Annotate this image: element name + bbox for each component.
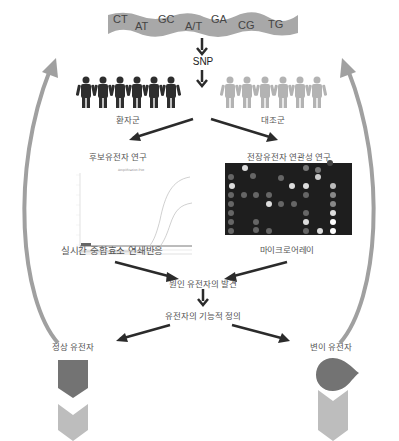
dna-base: CT — [113, 13, 128, 25]
candidate-gene-study-label: 후보유전자 연구 — [89, 150, 146, 162]
functional-definition-label: 유전자의 기능적 정의 — [165, 309, 240, 321]
mutant-gene-icon — [316, 358, 359, 441]
microarray-label: 마이크로어레이 — [260, 243, 315, 255]
gwas-label: 전장유전자 연관성 연구 — [247, 150, 330, 162]
dna-base: A/T — [185, 20, 202, 32]
dna-base: AT — [135, 20, 148, 32]
snp-label: SNP — [193, 56, 214, 67]
causal-gene-discovery-label: 원인 유전자의 발견 — [169, 277, 236, 289]
mutant-gene-label: 변이 유전자 — [310, 340, 352, 352]
svg-text:Amplification Plot: Amplification Plot — [118, 168, 145, 172]
dna-base: TG — [268, 18, 283, 30]
normal-gene-label: 정상 유전자 — [52, 340, 94, 352]
dna-base: GA — [211, 13, 227, 25]
control-group-icon — [220, 77, 327, 109]
dna-base: GC — [158, 13, 175, 25]
cycle-arrow-left — [24, 70, 58, 343]
patient-group-icon — [76, 77, 181, 109]
controls-label: 대조군 — [261, 113, 284, 125]
dna-base: CG — [238, 19, 255, 31]
normal-gene-icon — [58, 360, 88, 441]
pcr-amplification-chart: Amplification Plot — [76, 168, 192, 254]
realtime-pcr-label: 실시간 중합효소 연쇄반응 — [61, 243, 163, 257]
microarray-image — [225, 160, 352, 235]
patients-label: 환자군 — [116, 113, 139, 125]
